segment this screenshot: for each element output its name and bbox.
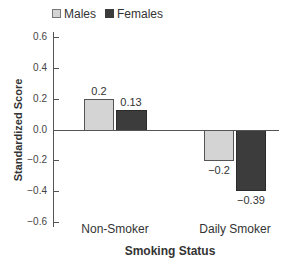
y-tick-label: −0.2	[17, 155, 47, 165]
y-tick	[53, 160, 59, 161]
y-tick	[53, 222, 59, 223]
y-tick-label: 0.4	[17, 63, 47, 73]
y-tick-label: −0.4	[17, 186, 47, 196]
legend-label-females: Females	[117, 8, 163, 20]
y-tick	[53, 191, 59, 192]
y-tick	[53, 68, 59, 69]
y-tick-label: 0.0	[17, 125, 47, 135]
y-tick	[53, 99, 59, 100]
y-tick-label: 0.6	[17, 32, 47, 42]
x-category-label: Daily Smoker	[185, 223, 285, 235]
bar-males-daily-smoker	[204, 130, 234, 161]
legend-label-males: Males	[64, 8, 96, 20]
bar-females-non-smoker	[116, 110, 147, 131]
y-tick-label: −0.6	[17, 217, 47, 227]
x-category-label: Non-Smoker	[65, 223, 165, 235]
value-label-males-daily-smoker: −0.2	[199, 165, 239, 176]
zero-baseline	[53, 130, 279, 131]
legend-swatch-females	[105, 9, 114, 18]
bar-males-non-smoker	[84, 99, 114, 131]
y-tick-label: 0.2	[17, 94, 47, 104]
y-tick	[53, 37, 59, 38]
value-label-females-daily-smoker: −0.39	[231, 195, 271, 206]
x-axis-title: Smoking Status	[115, 245, 225, 257]
value-label-males-non-smoker: 0.2	[79, 86, 119, 97]
legend-swatch-males	[52, 9, 61, 18]
value-label-females-non-smoker: 0.13	[111, 97, 151, 108]
bar-females-daily-smoker	[236, 130, 266, 191]
